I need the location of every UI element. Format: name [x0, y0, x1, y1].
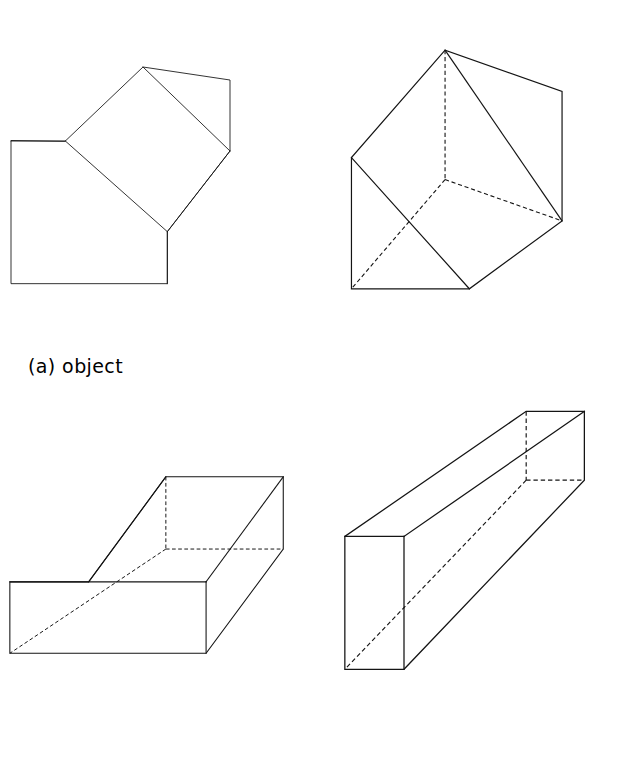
rectangular-base-drawing [0, 390, 312, 690]
figure-root: (a) object (b) wedge [0, 0, 624, 765]
panel-rectangular-base: (c) rectangular base [0, 390, 312, 765]
rectangular-back-body-fill [345, 411, 585, 669]
rectangular-back-drawing [312, 390, 624, 710]
panel-object: (a) object [0, 0, 312, 390]
wedge-body-fill [351, 50, 562, 289]
wedge-drawing [312, 0, 624, 350]
panel-wedge: (b) wedge [312, 0, 624, 390]
panel-caption-object: (a) object [28, 357, 123, 376]
object-drawing [0, 0, 312, 350]
panel-rectangular-back: (d) rectangular back [312, 390, 624, 765]
object-body-fill [11, 67, 230, 284]
